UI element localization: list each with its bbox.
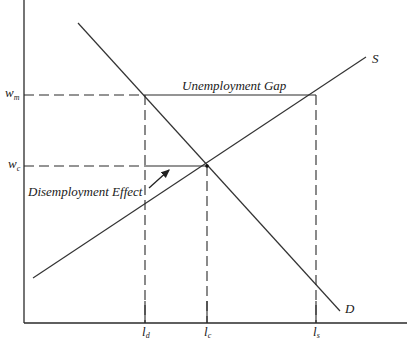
demand-curve bbox=[78, 23, 340, 311]
labor-market-diagram: S D Unemployment Gap Disemployment Effec… bbox=[0, 0, 407, 339]
wc-label: wc bbox=[8, 156, 21, 173]
ld-label: ld bbox=[142, 324, 151, 339]
ls-label: ls bbox=[313, 324, 320, 339]
arrow-icon bbox=[149, 170, 169, 188]
equilibrium-point bbox=[205, 164, 209, 168]
disemployment-effect-label: Disemployment Effect bbox=[27, 184, 143, 199]
demand-label: D bbox=[344, 301, 355, 316]
unemployment-gap-label: Unemployment Gap bbox=[182, 78, 287, 93]
lc-label: lc bbox=[204, 324, 212, 339]
supply-label: S bbox=[372, 51, 379, 66]
wm-label: wm bbox=[5, 85, 20, 102]
